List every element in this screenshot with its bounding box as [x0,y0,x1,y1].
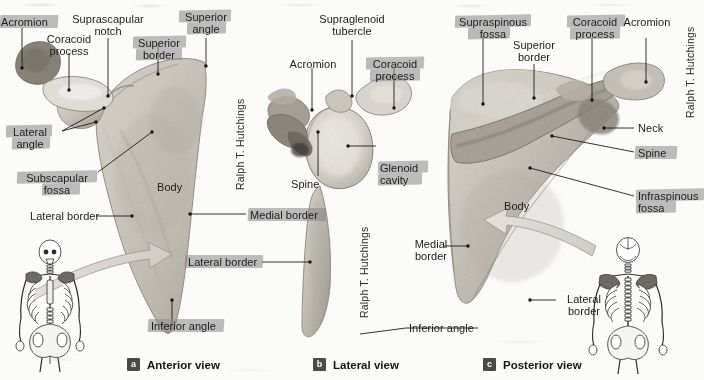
lateral-scapula-bone [267,76,411,336]
label-superior-angle-line1: Superior [178,11,234,24]
label-coracoid-process-lateral-line2: process [364,70,426,83]
label-acromion-anterior: Acromion [1,16,48,29]
leader-lines [22,28,646,334]
label-coracoid-process-lateral-line1: Coracoid [364,58,426,71]
label-medial-border-anterior: Medial border [250,209,318,222]
label-medial-border-posterior-line1: Medial [406,238,456,251]
label-supraglenoid-tubercle-line2: tubercle [308,25,396,38]
label-body-posterior: Body [504,200,529,213]
label-acromion-lateral: Acromion [282,58,344,71]
label-lateral-border-posterior-line1: Lateral [558,293,610,306]
label-spine-posterior: Spine [638,147,666,160]
label-inferior-angle-lateral: Inferior angle [409,322,474,335]
scapula-anatomy-figure: Acromion Coracoid process Suprascapular … [0,0,704,380]
view-badge-b: b [313,358,326,371]
view-name-anterior: Anterior view [147,359,220,371]
label-lateral-border-posterior-line2: border [558,305,610,318]
leader-dots [20,64,647,301]
label-supraspinous-fossa-line1: Supraspinous [452,16,534,29]
label-infraspinous-fossa-line2: fossa [638,202,665,215]
view-badge-a: a [127,358,140,371]
label-supraglenoid-tubercle-line1: Supraglenoid [308,13,396,26]
scan-artifact-top [0,0,704,12]
view-label-anterior: a Anterior view [127,358,220,371]
label-superior-border-anterior-line1: Superior [130,37,188,50]
label-inferior-angle-anterior: Inferior angle [151,320,216,333]
credit-anterior: Ralph T. Hutchings [234,98,246,190]
posterior-scapula-bone [448,63,664,303]
label-superior-angle-line2: angle [178,23,234,36]
scan-artifact-bottom [0,330,704,380]
label-coracoid-process-posterior-line2: process [564,28,626,41]
label-superior-border-posterior-line1: Superior [505,39,563,52]
credit-posterior: Ralph T. Hutchings [684,26,696,118]
label-subscapular-fossa-line2: fossa [14,184,100,197]
view-name-lateral: Lateral view [333,359,399,371]
label-coracoid-process-anterior-line2: process [38,45,100,58]
label-superior-border-anterior-line2: border [130,49,188,62]
label-infraspinous-fossa-line1: Infraspinous [638,190,699,203]
view-label-lateral: b Lateral view [313,358,399,371]
label-body-anterior: Body [157,181,182,194]
label-glenoid-cavity-line2: cavity [380,174,408,187]
credit-lateral: Ralph T. Hutchings [358,226,370,318]
view-label-posterior: c Posterior view [483,358,582,371]
label-lateral-border-lateral: Lateral border [188,256,257,269]
label-acromion-posterior: Acromion [617,16,677,29]
label-neck-posterior: Neck [638,122,663,135]
label-glenoid-cavity-line1: Glenoid [380,162,418,175]
label-spine-lateral: Spine [291,178,319,191]
label-suprascapular-notch-line1: Suprascapular [63,13,153,26]
label-lateral-border-anterior: Lateral border [30,210,99,223]
label-subscapular-fossa-line1: Subscapular [14,172,100,185]
label-lateral-angle-line2: angle [2,138,58,151]
figure-artwork [0,0,704,380]
label-superior-border-posterior-line2: border [505,51,563,64]
view-name-posterior: Posterior view [503,359,582,371]
label-medial-border-posterior-line2: border [406,250,456,263]
label-lateral-angle-line1: Lateral [2,126,58,139]
view-badge-c: c [483,358,496,371]
